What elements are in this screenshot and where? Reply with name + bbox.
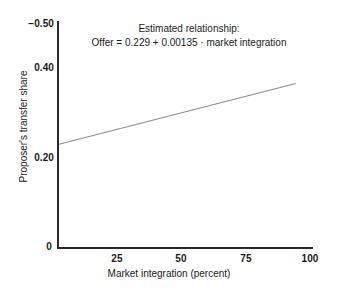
chart-annotation: Estimated relationship: Offer = 0.229 + … — [58, 22, 320, 50]
y-axis-spine — [57, 21, 59, 249]
x-axis-tick-label: 25 — [111, 253, 122, 264]
chart-figure: −0.50 0.40 0.20 0 25 50 75 100 Market in… — [0, 0, 338, 297]
x-axis-title: Market integration (percent) — [0, 268, 338, 279]
x-axis-tick-label: 50 — [175, 253, 186, 264]
annotation-line-2: Offer = 0.229 + 0.00135 · market integra… — [58, 36, 320, 50]
y-axis-tick-label: −0.50 — [28, 18, 54, 29]
y-axis-origin-label: 0 — [46, 241, 52, 252]
x-axis-spine — [57, 247, 313, 249]
y-axis-tick-label: 0.40 — [34, 62, 54, 73]
x-axis-tick-label: 100 — [302, 253, 319, 264]
y-axis-title: Proposer's transfer share — [18, 42, 29, 212]
regression-line — [58, 83, 296, 144]
annotation-line-1: Estimated relationship: — [58, 22, 320, 36]
x-axis-tick-label: 75 — [240, 253, 251, 264]
y-axis-tick-label: 0.20 — [34, 152, 54, 163]
